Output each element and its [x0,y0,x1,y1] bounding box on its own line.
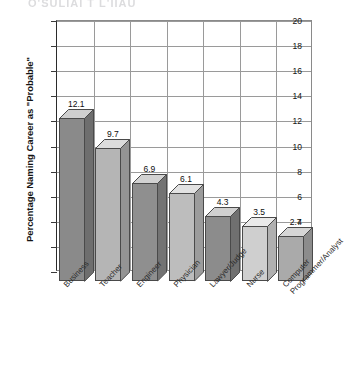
bar-front-face [59,118,85,281]
bar [169,193,195,281]
bar-side-face [303,227,314,283]
bar-value-label: 6.1 [163,174,209,184]
bar [205,216,231,281]
bar [59,118,85,281]
bar-side-face [230,207,241,283]
bar-value-label: 3.5 [236,207,282,217]
bar [95,148,121,281]
bar-front-face [205,216,231,281]
bar-side-face [157,174,168,283]
bar-series [57,21,311,270]
bar [242,226,268,281]
plot-area: 02468101214161820 12.19.76.96.14.33.52.7 [56,20,312,271]
bar-value-label: 6.9 [126,164,172,174]
top-cutoff-artifact: Q'SULIAI T L'IIAU [28,0,320,7]
bar [132,183,158,281]
bar-value-label: 4.3 [200,197,246,207]
y-axis-title: Percentage Naming Career as "Probable" [24,25,35,275]
bar [278,236,304,281]
bar-front-face [169,193,195,281]
bar-front-face [242,226,268,281]
y-tick-mark [51,272,57,273]
bar-value-label: 12.1 [53,99,99,109]
bar-front-face [95,148,121,281]
bar-value-label: 2.7 [273,217,319,227]
bar-front-face [278,236,304,281]
bar-side-face [120,139,131,283]
bar-front-face [132,183,158,281]
bar-value-label: 9.7 [90,129,136,139]
